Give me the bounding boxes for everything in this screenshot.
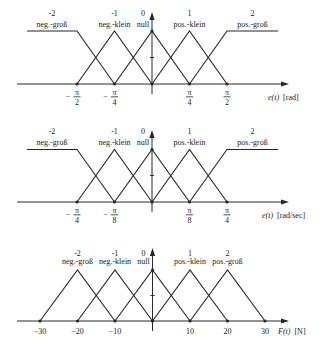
x-axis-label: e(t)[rad/sec] xyxy=(262,211,305,220)
term-label-neg-klein: -1 neg.-klein xyxy=(98,127,130,147)
peak-marker xyxy=(151,268,154,271)
y-axis-arrow-icon xyxy=(150,248,155,256)
term-label-pos-klein: 1 pos.-klein xyxy=(174,127,206,147)
tick-marker xyxy=(188,319,191,322)
term-label-pos-gross: 2 pos.-groß xyxy=(237,9,267,30)
term-index: 0 xyxy=(141,127,145,136)
term-name: pos.-groß xyxy=(212,257,242,266)
tick-marker xyxy=(113,200,116,203)
tick-label: −30 xyxy=(34,327,47,336)
tick-numerator: π xyxy=(75,206,79,215)
term-name: neg.-klein xyxy=(98,138,130,147)
tick-label: −20 xyxy=(71,327,84,336)
x-tick: − π 4 xyxy=(66,200,81,225)
membership-function-neg-klein xyxy=(77,150,152,203)
term-label-pos-gross: 2 pos.-groß xyxy=(212,249,242,267)
axis-variable: F(t) xyxy=(277,327,291,336)
tick-denominator: 4 xyxy=(75,216,79,225)
term-name: neg.-groß xyxy=(36,20,67,29)
term-name: null xyxy=(137,138,150,147)
tick-numerator: π xyxy=(187,88,191,97)
tick-denominator: 4 xyxy=(225,216,229,225)
tick-marker xyxy=(113,82,116,85)
x-axis-label: e(t)[rad] xyxy=(268,93,299,102)
x-axis-arrow-icon xyxy=(281,199,289,204)
x-tick: 30 xyxy=(261,319,269,336)
term-index: -2 xyxy=(49,127,56,136)
x-tick: π 2 xyxy=(224,82,231,107)
tick-numerator: π xyxy=(187,206,191,215)
term-name: null xyxy=(137,257,150,266)
membership-function-neg-klein xyxy=(78,270,153,321)
term-name: pos.-klein xyxy=(174,138,206,147)
term-index: 1 xyxy=(188,127,192,136)
membership-function-pos-gross xyxy=(190,270,265,321)
membership-functions-figure: -2 neg.-groß -1 neg.-klein 0 null 1 pos.… xyxy=(0,0,329,354)
axis-variable: e(t) xyxy=(268,93,279,102)
tick-label: 30 xyxy=(261,327,269,336)
tick-numerator: π xyxy=(75,88,79,97)
membership-function-pos-klein xyxy=(152,31,227,84)
tick-numerator: π xyxy=(112,88,116,97)
tick-denominator: 8 xyxy=(188,216,192,225)
tick-marker xyxy=(188,200,191,203)
term-name: neg.-klein xyxy=(98,20,130,29)
axis-unit: [rad/sec] xyxy=(277,211,305,220)
origin-marker xyxy=(150,82,153,85)
membership-function-pos-klein xyxy=(153,270,228,321)
tick-marker xyxy=(225,82,228,85)
tick-marker xyxy=(76,319,79,322)
tick-marker xyxy=(226,319,229,322)
term-label-neg-gross: -2 neg.-groß xyxy=(62,249,93,267)
tick-sign: − xyxy=(66,92,71,101)
term-index: 0 xyxy=(141,9,145,18)
x-axis-arrow-icon xyxy=(281,318,289,323)
tick-marker xyxy=(75,82,78,85)
x-tick: − π 8 xyxy=(103,200,118,225)
tick-marker xyxy=(225,200,228,203)
term-name: neg.-groß xyxy=(62,257,93,266)
tick-label: −10 xyxy=(109,327,122,336)
term-label-pos-klein: 1 pos.-klein xyxy=(174,249,206,267)
membership-function-neg-klein xyxy=(77,31,152,84)
membership-function-neg-gross xyxy=(40,270,115,321)
tick-marker xyxy=(113,319,116,322)
term-name: pos.-groß xyxy=(237,138,267,147)
axis-unit: [rad] xyxy=(283,93,299,102)
x-tick: π 8 xyxy=(186,200,193,225)
tick-numerator: π xyxy=(225,206,229,215)
term-name: null xyxy=(137,20,150,29)
term-index: -1 xyxy=(111,127,118,136)
tick-sign: − xyxy=(103,210,108,219)
y-axis-arrow-icon xyxy=(149,130,154,138)
term-index: 2 xyxy=(251,127,255,136)
x-tick: π 4 xyxy=(186,82,193,107)
tick-sign: − xyxy=(66,210,71,219)
tick-label: 20 xyxy=(224,327,232,336)
origin-marker xyxy=(151,319,154,322)
membership-function-neg-gross xyxy=(27,150,115,203)
term-index: -1 xyxy=(111,9,118,18)
x-axis-label: F(t)[N] xyxy=(277,327,306,336)
x-tick: −20 xyxy=(71,319,84,336)
tick-numerator: π xyxy=(112,206,116,215)
term-name: pos.-klein xyxy=(174,20,206,29)
y-axis-arrow-icon xyxy=(149,12,154,20)
membership-function-pos-gross xyxy=(190,31,279,84)
origin-marker xyxy=(150,200,153,203)
chart-angle-error: -2 neg.-groß -1 neg.-klein 0 null 1 pos.… xyxy=(17,9,299,108)
x-tick: − π 4 xyxy=(103,82,118,107)
term-index: 2 xyxy=(251,9,255,18)
term-label-null: 0 null xyxy=(137,127,150,147)
x-tick: −30 xyxy=(34,319,47,336)
membership-function-neg-gross xyxy=(27,31,115,84)
term-label-neg-klein: -1 neg.-klein xyxy=(99,249,131,267)
term-label-pos-gross: 2 pos.-groß xyxy=(237,127,267,147)
peak-marker xyxy=(150,29,153,32)
term-name: neg.-groß xyxy=(37,138,68,147)
term-name: neg.-klein xyxy=(99,257,131,266)
peak-marker xyxy=(150,148,153,151)
membership-function-pos-gross xyxy=(190,150,279,203)
term-label-neg-klein: -1 neg.-klein xyxy=(98,9,130,30)
term-label-pos-klein: 1 pos.-klein xyxy=(174,9,206,30)
